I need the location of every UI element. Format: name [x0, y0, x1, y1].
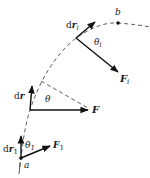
F-label: F: [91, 104, 100, 115]
dr-label: dr: [14, 91, 26, 101]
dri-arrow: [76, 22, 95, 38]
thetai-label: θi: [94, 37, 102, 49]
dr-arrow: [30, 86, 32, 110]
point-b-label: b: [115, 7, 121, 17]
point-a-label: a: [24, 160, 29, 170]
work-path-diagram: a b dr1 θ1 F1 dr θ F dri θi Fi: [0, 0, 150, 178]
path-start-tick: [20, 162, 21, 170]
theta1-label: θ1: [25, 140, 35, 152]
F1-label: F1: [52, 140, 64, 152]
theta-label: θ: [45, 94, 51, 104]
dr1-label: dr1: [3, 144, 18, 156]
point-b: [116, 21, 120, 25]
Fi-label: Fi: [119, 73, 129, 86]
dri-label: dri: [66, 20, 79, 32]
